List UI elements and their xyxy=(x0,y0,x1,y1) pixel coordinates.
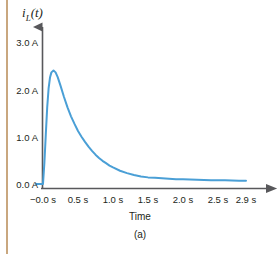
data-series-line xyxy=(36,70,246,184)
y-tick-label-0: 0.0 A xyxy=(0,180,38,190)
y-tick-label-2: 2.0 A xyxy=(0,86,38,96)
y-tick-label-3: 3.0 A xyxy=(0,38,38,48)
x-tick-label-6: 2.9 s xyxy=(226,195,266,205)
y-tick-label-1: 1.0 A xyxy=(0,133,38,143)
x-axis-title: Time xyxy=(0,212,280,222)
figure-container: iL(t) 3.0 A 2.0 A 1.0 A 0.0 A −0.0 s 0.5… xyxy=(0,0,280,254)
x-tick-label-4: 2.0 s xyxy=(163,195,203,205)
x-tick-label-3: 1.5 s xyxy=(128,195,168,205)
x-tick-label-2: 1.0 s xyxy=(93,195,133,205)
x-tick-label-1: 0.5 s xyxy=(58,195,98,205)
x-tick-label-0: −0.0 s xyxy=(23,195,63,205)
figure-caption: (a) xyxy=(0,230,280,240)
